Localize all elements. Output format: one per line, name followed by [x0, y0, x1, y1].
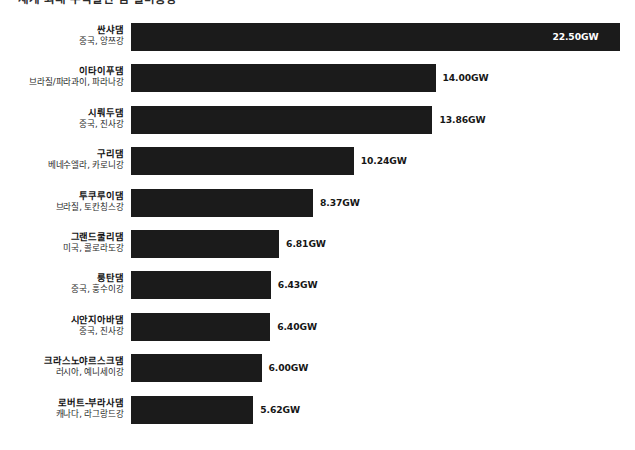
bar-plot-area: 싼샤댐중국, 양쯔강22.50GW이타이푸댐브라질/파라과이, 파라나강14.0…: [0, 14, 635, 434]
bar-row-label-group: 이타이푸댐브라질/파라과이, 파라나강: [0, 65, 124, 88]
dam-location-label: 중국, 양쯔강: [0, 36, 124, 47]
bar-value-label: 6.40GW: [277, 322, 317, 332]
dam-name-label: 시안지아바댐: [0, 314, 124, 325]
bar-row-label-group: 투쿠루이댐브라질, 토칸칭스강: [0, 190, 124, 213]
bar: [131, 106, 432, 134]
bar-row: 투쿠루이댐브라질, 토칸칭스강8.37GW: [0, 189, 635, 217]
bar-value-label: 22.50GW: [552, 32, 598, 42]
dam-name-label: 이타이푸댐: [0, 65, 124, 76]
bar-row-label-group: 그랜드쿨리댐미국, 콜로라도강: [0, 231, 124, 254]
bar: [131, 23, 620, 51]
bar-row: 시안지아바댐중국, 진사강6.40GW: [0, 313, 635, 341]
bar: [131, 189, 313, 217]
bar-row: 룽탄댐중국, 훙수이강6.43GW: [0, 271, 635, 299]
dam-location-label: 캐나다, 라그랑드강: [0, 409, 124, 420]
dam-location-label: 베네수엘라, 카로니강: [0, 160, 124, 171]
bar-row-label-group: 구리댐베네수엘라, 카로니강: [0, 148, 124, 171]
bar-value-label: 8.37GW: [320, 198, 360, 208]
bar-row-label-group: 싼샤댐중국, 양쯔강: [0, 24, 124, 47]
bar-value-label: 13.86GW: [439, 115, 485, 125]
dam-name-label: 룽탄댐: [0, 272, 124, 283]
bar-row-label-group: 시안지아바댐중국, 진사강: [0, 314, 124, 337]
dam-location-label: 중국, 훙수이강: [0, 284, 124, 295]
bar: [131, 64, 436, 92]
bar: [131, 313, 270, 341]
bar: [131, 147, 354, 175]
dam-location-label: 브라질/파라과이, 파라나강: [0, 77, 124, 88]
bar-value-label: 10.24GW: [361, 156, 407, 166]
bar-value-label: 6.81GW: [286, 239, 326, 249]
dam-location-label: 미국, 콜로라도강: [0, 243, 124, 254]
bar-row-label-group: 시뤄두댐중국, 진사강: [0, 107, 124, 130]
dam-location-label: 브라질, 토칸칭스강: [0, 202, 124, 213]
bar-row-label-group: 크라스노야르스크댐러시아, 예니세이강: [0, 355, 124, 378]
bar-row: 그랜드쿨리댐미국, 콜로라도강6.81GW: [0, 230, 635, 258]
bar-value-label: 6.00GW: [269, 363, 309, 373]
hydro-dam-capacity-chart: 세계 최대 수력발전 댐 설비용량 싼샤댐중국, 양쯔강22.50GW이타이푸댐…: [0, 0, 635, 450]
dam-name-label: 싼샤댐: [0, 24, 124, 35]
bar: [131, 396, 253, 424]
bar: [131, 271, 271, 299]
dam-location-label: 러시아, 예니세이강: [0, 367, 124, 378]
bar-row: 이타이푸댐브라질/파라과이, 파라나강14.00GW: [0, 64, 635, 92]
bar-row: 시뤄두댐중국, 진사강13.86GW: [0, 106, 635, 134]
dam-name-label: 로버트-부라사댐: [0, 397, 124, 408]
dam-name-label: 투쿠루이댐: [0, 190, 124, 201]
dam-location-label: 중국, 진사강: [0, 119, 124, 130]
bar: [131, 354, 262, 382]
bar-value-label: 14.00GW: [443, 73, 489, 83]
dam-location-label: 중국, 진사강: [0, 326, 124, 337]
bar-row: 크라스노야르스크댐러시아, 예니세이강6.00GW: [0, 354, 635, 382]
dam-name-label: 크라스노야르스크댐: [0, 355, 124, 366]
bar-value-label: 5.62GW: [260, 405, 300, 415]
dam-name-label: 구리댐: [0, 148, 124, 159]
bar-row: 싼샤댐중국, 양쯔강22.50GW: [0, 23, 635, 51]
dam-name-label: 그랜드쿨리댐: [0, 231, 124, 242]
dam-name-label: 시뤄두댐: [0, 107, 124, 118]
bar-row-label-group: 로버트-부라사댐캐나다, 라그랑드강: [0, 397, 124, 420]
bar-row-label-group: 룽탄댐중국, 훙수이강: [0, 272, 124, 295]
bar-row: 로버트-부라사댐캐나다, 라그랑드강5.62GW: [0, 396, 635, 424]
bar-row: 구리댐베네수엘라, 카로니강10.24GW: [0, 147, 635, 175]
bar: [131, 230, 279, 258]
bar-value-label: 6.43GW: [278, 280, 318, 290]
chart-title: 세계 최대 수력발전 댐 설비용량: [18, 0, 278, 5]
